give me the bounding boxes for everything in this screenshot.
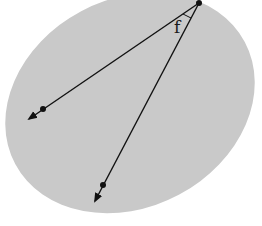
vertex-point: [196, 0, 202, 6]
plane-ellipse: [0, 0, 262, 226]
lower-ray-point: [100, 182, 106, 188]
left-ray-point: [40, 106, 46, 112]
angle-diagram: f: [0, 0, 262, 226]
